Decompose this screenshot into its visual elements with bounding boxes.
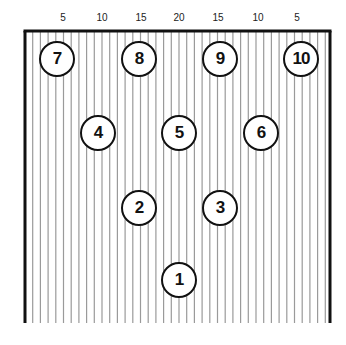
pin-2: 2 [121, 190, 157, 226]
scale-label: 20 [173, 12, 184, 23]
pin-1: 1 [161, 262, 197, 298]
scale-label: 10 [96, 12, 107, 23]
pin-8: 8 [121, 41, 157, 77]
scale-label: 10 [252, 12, 263, 23]
pin-4: 4 [80, 115, 116, 151]
scale-label: 5 [60, 12, 66, 23]
pin-9: 9 [202, 41, 238, 77]
pin-3: 3 [202, 190, 238, 226]
pin-diagram: 510152015105 12345678910 [0, 0, 346, 345]
pin-10: 10 [283, 41, 319, 77]
pin-6: 6 [243, 115, 279, 151]
scale-label: 15 [135, 12, 146, 23]
pin-5: 5 [161, 115, 197, 151]
scale-label: 5 [294, 12, 300, 23]
scale-label: 15 [212, 12, 223, 23]
pin-7: 7 [39, 41, 75, 77]
